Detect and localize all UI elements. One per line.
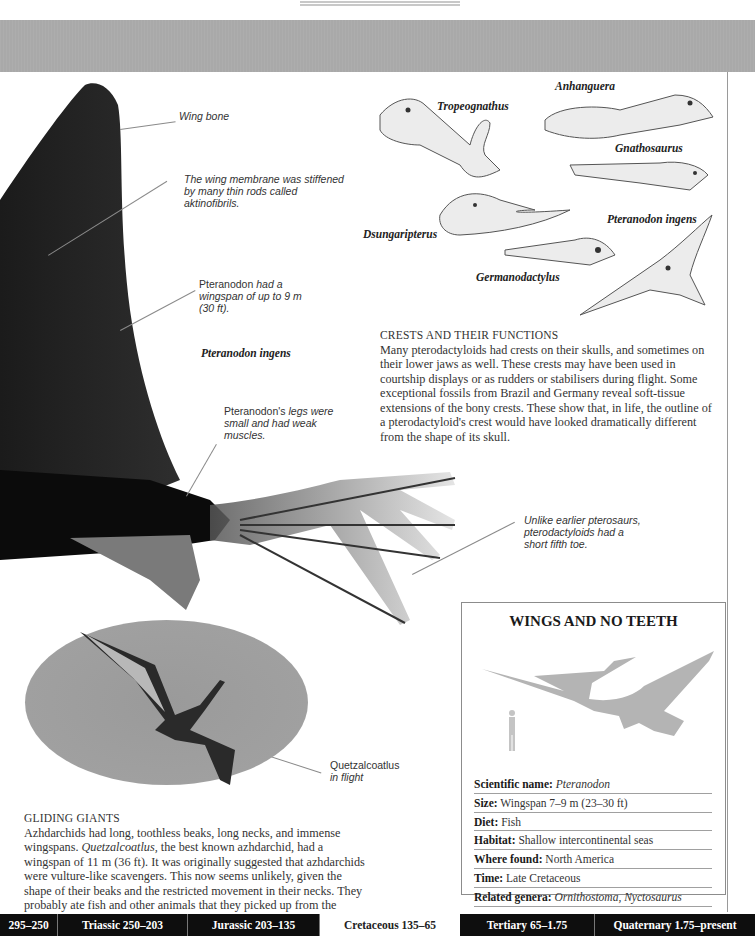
running-title xyxy=(300,0,460,6)
callout-legs: Pteranodon's legs were small and had wea… xyxy=(224,405,334,441)
gliding-section: GLIDING GIANTS Azhdarchids had long, too… xyxy=(24,811,369,927)
flight-caption-name: Quetzalcoatlus xyxy=(330,759,399,771)
skull-label: Anhanguera xyxy=(555,80,615,92)
skull-label: Germanodactylus xyxy=(476,271,560,283)
flight-caption-text: in flight xyxy=(330,771,399,783)
fact-list: Scientific name: Pteranodon Size: Wingsp… xyxy=(474,775,712,907)
skull-label: Dsungaripterus xyxy=(363,228,437,240)
fact-box: WINGS AND NO TEETH Scientific name: Pter… xyxy=(461,602,726,895)
timeline-period-tertiary: Tertiary 65–1.75 xyxy=(460,914,595,936)
fact-row-time: Time: Late Cretaceous xyxy=(474,869,712,888)
callout-fifth-toe: Unlike earlier pterosaurs, pterodactyloi… xyxy=(524,514,649,550)
callout-wingspan: Pteranodon had a wingspan of up to 9 m (… xyxy=(199,278,309,314)
gliding-body-species: Quetzalcoatlus, xyxy=(82,840,158,854)
skull-label: Pteranodon ingens xyxy=(607,213,697,225)
skull-illustrations xyxy=(360,75,730,335)
fact-row-where-found: Where found: North America xyxy=(474,850,712,869)
fact-row-scientific-name: Scientific name: Pteranodon xyxy=(474,775,712,794)
crests-section: CRESTS AND THEIR FUNCTIONS Many pterodac… xyxy=(380,328,715,444)
timeline-period-triassic: Triassic 250–203 xyxy=(58,914,188,936)
skull-label: Gnathosaurus xyxy=(615,142,683,154)
crests-heading: CRESTS AND THEIR FUNCTIONS xyxy=(380,328,715,343)
timeline-period-quaternary: Quaternary 1.75–present xyxy=(595,914,755,936)
callout-membrane: The wing membrane was stiffened by many … xyxy=(184,173,344,209)
species-caption: Pteranodon ingens xyxy=(201,347,291,359)
skull-label: Tropeognathus xyxy=(437,100,509,112)
callout-wing-bone: Wing bone xyxy=(179,110,229,122)
timeline-period-permian: 295–250 xyxy=(0,914,58,936)
fact-row-diet: Diet: Fish xyxy=(474,813,712,832)
gliding-body: Azhdarchids had long, toothless beaks, l… xyxy=(24,826,369,928)
size-comparison-silhouette xyxy=(474,641,724,771)
fact-row-size: Size: Wingspan 7–9 m (23–30 ft) xyxy=(474,794,712,813)
fact-row-related-genera: Related genera: Ornithostoma, Nyctosauru… xyxy=(474,888,712,907)
callout-legs-name: Pteranodon's xyxy=(224,405,286,417)
timeline-period-cretaceous: Cretaceous 135–65 xyxy=(320,914,460,936)
gliding-heading: GLIDING GIANTS xyxy=(24,811,369,826)
crests-body: Many pterodactyloids had crests on their… xyxy=(380,343,715,445)
header-band xyxy=(0,20,755,72)
flight-caption: Quetzalcoatlus in flight xyxy=(330,759,399,783)
timeline-period-jurassic: Jurassic 203–135 xyxy=(188,914,320,936)
quetzalcoatlus-illustration xyxy=(25,620,308,785)
fact-row-habitat: Habitat: Shallow intercontinental seas xyxy=(474,831,712,850)
geologic-timeline: 295–250 Triassic 250–203 Jurassic 203–13… xyxy=(0,914,755,936)
callout-wingspan-name: Pteranodon xyxy=(199,278,253,290)
fact-box-title: WINGS AND NO TEETH xyxy=(462,613,725,630)
